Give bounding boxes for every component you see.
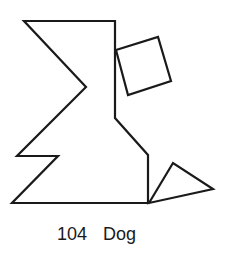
figure-name: Dog xyxy=(103,224,136,245)
dog-tail-triangle xyxy=(149,163,213,203)
figure-number: 104 xyxy=(57,224,87,245)
dog-body-polygon xyxy=(12,21,148,203)
figure-caption: 104 Dog xyxy=(0,224,227,246)
dog-head-square xyxy=(116,37,171,95)
tangram-dog-figure xyxy=(0,0,227,257)
